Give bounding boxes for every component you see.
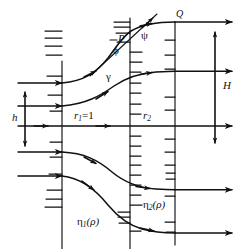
label-r2: r2 (143, 110, 151, 123)
label-eta2: η2(ρ) (143, 199, 165, 212)
streamline-upper-1 (18, 22, 175, 83)
tick-group-left (45, 31, 62, 207)
arrowhead-on-streamline-2a (96, 92, 108, 100)
label-point-q: Q (176, 9, 183, 19)
arrowhead-on-streamline-5a (82, 181, 94, 190)
tick-group-right (165, 40, 175, 232)
label-r1: r1=1 (74, 110, 94, 123)
label-height-h: h (12, 112, 18, 123)
label-angle-psi: ψ (141, 30, 148, 41)
label-point-p: P (118, 33, 125, 44)
arrowhead-on-streamline-2b (140, 73, 152, 75)
label-eta1: η1(ρ) (77, 216, 99, 229)
arrowhead-on-streamline-4b (136, 187, 150, 189)
streamline-lower-2 (18, 176, 232, 233)
label-angle-phi: ϕ (113, 45, 119, 56)
streamline-lower-1 (18, 152, 232, 190)
label-height-H: H (223, 80, 231, 91)
diagram-canvas: P Q ϕ ψ γ h H r1=1 r2 η1(ρ) η2(ρ) (0, 0, 248, 249)
label-angle-gamma: γ (106, 71, 111, 82)
